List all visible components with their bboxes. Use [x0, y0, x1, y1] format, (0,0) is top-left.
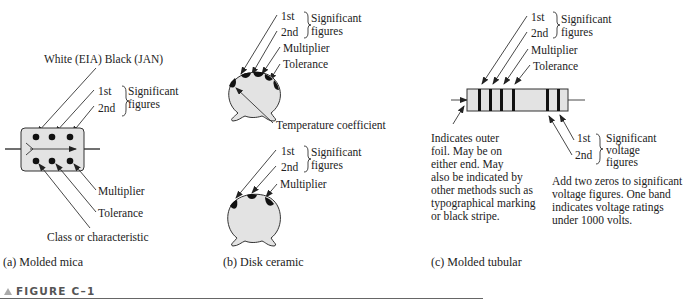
- label-significant: Significant: [128, 85, 179, 98]
- voltage-note: Add two zeros to significant voltage fig…: [552, 175, 683, 226]
- label-temp-coefficient: Temperature coefficient: [276, 119, 387, 132]
- svg-text:either end. May: either end. May: [431, 158, 504, 171]
- panel-molded-mica: White (EIA) Black (JAN) 1st 2nd Signific…: [3, 53, 179, 269]
- arrow-1st: [482, 16, 527, 84]
- label-figures: figures: [128, 98, 160, 111]
- label-1st: 1st: [531, 11, 545, 23]
- arrow-white-black: [37, 68, 96, 133]
- brace-icon: [304, 12, 311, 38]
- brace-icon: [596, 134, 603, 164]
- label-multiplier: Multiplier: [280, 178, 327, 191]
- panel-molded-tubular: 1st 2nd Significant figures Multiplier T…: [431, 11, 683, 269]
- arrow-2nd: [252, 31, 277, 74]
- arrow-1st: [241, 15, 277, 74]
- dot: [67, 134, 74, 141]
- arrow-multiplier: [262, 47, 280, 74]
- triangle-up-icon: [4, 288, 12, 295]
- svg-text:also be indicated by: also be indicated by: [431, 171, 523, 184]
- label-1st: 1st: [281, 10, 295, 22]
- svg-text:voltage figures. One band: voltage figures. One band: [552, 188, 671, 201]
- label-multiplier: Multiplier: [98, 185, 145, 198]
- label-figures: figures: [561, 26, 593, 39]
- label-2nd: 2nd: [281, 26, 299, 38]
- dot: [67, 158, 74, 165]
- dot: [49, 134, 56, 141]
- label-2nd: 2nd: [531, 27, 549, 39]
- arrow-multiplier: [74, 164, 96, 190]
- arrow-multiplier: [504, 49, 528, 84]
- label-figures: figures: [311, 159, 343, 172]
- label-2nd: 2nd: [98, 102, 116, 114]
- label-1st: 1st: [281, 145, 295, 157]
- arrow-v-1st: [560, 115, 574, 140]
- capacitor-color-code-figure: White (EIA) Black (JAN) 1st 2nd Signific…: [0, 0, 688, 299]
- svg-text:typographical marking: typographical marking: [431, 197, 536, 210]
- caption-b: (b) Disk ceramic: [223, 255, 304, 269]
- band: [557, 89, 560, 111]
- label-tolerance: Tolerance: [283, 58, 328, 70]
- svg-text:other methods such as: other methods such as: [431, 184, 533, 196]
- band: [500, 89, 503, 111]
- arrow-1st: [236, 150, 276, 198]
- tubular-capacitor-body: [467, 89, 568, 111]
- svg-text:indicates voltage ratings: indicates voltage ratings: [552, 201, 664, 214]
- label-significant: Significant: [311, 146, 362, 159]
- foil-note: Indicates outer foil. May be on either e…: [431, 132, 536, 223]
- label-v-figures: figures: [606, 156, 638, 169]
- brace-icon: [304, 146, 311, 172]
- band: [512, 89, 515, 111]
- arrow-foil-note: [453, 106, 464, 124]
- arrow-tolerance: [515, 65, 530, 84]
- brace-icon: [553, 12, 560, 38]
- label-v-1st: 1st: [577, 132, 591, 144]
- arrow-1st: [55, 90, 94, 133]
- label-significant: Significant: [311, 12, 362, 25]
- disk-ceramic-body: [229, 72, 281, 121]
- band: [489, 89, 492, 111]
- svg-text:foil. May be on: foil. May be on: [431, 145, 502, 158]
- dot: [33, 158, 40, 165]
- arrow-multiplier: [266, 184, 277, 197]
- label-v-2nd: 2nd: [575, 149, 593, 161]
- label-significant: Significant: [561, 13, 612, 26]
- caption-a: (a) Molded mica: [3, 255, 84, 269]
- label-white-black: White (EIA) Black (JAN): [44, 53, 163, 66]
- panel-disk-ceramic: 1st 2nd Significant figures Multiplier T…: [223, 10, 387, 269]
- label-multiplier: Multiplier: [283, 42, 330, 55]
- svg-text:or black stripe.: or black stripe.: [431, 210, 500, 223]
- label-multiplier: Multiplier: [531, 44, 578, 57]
- band: [546, 89, 549, 111]
- svg-text:Indicates outer: Indicates outer: [431, 132, 499, 144]
- label-1st: 1st: [98, 85, 112, 97]
- dot: [33, 134, 40, 141]
- dot: [49, 158, 56, 165]
- label-figures: figures: [311, 25, 343, 38]
- label-2nd: 2nd: [281, 161, 299, 173]
- label-tolerance: Tolerance: [533, 60, 578, 72]
- band: [478, 89, 481, 111]
- svg-text:under 1000 volts.: under 1000 volts.: [552, 214, 632, 226]
- svg-text:Add two zeros to significant: Add two zeros to significant: [552, 175, 683, 188]
- label-tolerance: Tolerance: [98, 207, 143, 219]
- caption-c: (c) Molded tubular: [431, 255, 522, 269]
- figure-label: FIGURE C–1: [16, 285, 95, 297]
- arrow-v-2nd: [549, 116, 572, 155]
- label-class: Class or characteristic: [47, 231, 149, 243]
